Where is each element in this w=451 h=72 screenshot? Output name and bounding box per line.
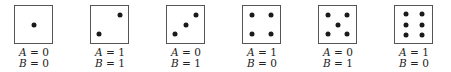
die-face [242,5,281,44]
variable-name: B [19,57,27,69]
pip-dot-icon [344,13,349,18]
variable-value: 1 [194,57,201,69]
label-b: B = 1 [84,58,136,69]
pip-dot-icon [404,22,409,27]
pip-dot-icon [250,31,255,36]
variable-name: B [247,57,255,69]
variable-value: 0 [42,57,49,69]
variable-name: B [399,57,407,69]
die-face [14,5,53,44]
pip-dot-icon [335,22,340,27]
die-face [166,5,205,44]
pip-dot-icon [419,32,424,37]
variable-value: 0 [270,57,277,69]
die-1: A = 0B = 0 [8,4,60,72]
pip-dot-icon [326,13,331,18]
pip-dot-icon [193,13,198,18]
pip-dot-icon [419,22,424,27]
variable-name: B [323,57,331,69]
pip-dot-icon [268,31,273,36]
pip-dot-icon [326,31,331,36]
label-b: B = 1 [160,58,212,69]
die-face [318,5,357,44]
die-6: A = 1B = 0 [388,4,440,72]
pip-dot-icon [250,13,255,18]
pip-dot-icon [97,31,102,36]
die-5: A = 0B = 1 [312,4,364,72]
die-face [90,5,129,44]
die-face [394,5,433,44]
pip-dot-icon [404,12,409,17]
variable-value: 1 [118,57,125,69]
pip-dot-icon [173,31,178,36]
pip-dot-icon [31,22,36,27]
label-b: B = 0 [388,58,440,69]
pip-dot-icon [419,12,424,17]
label-b: B = 0 [8,58,60,69]
equals-sign: = [179,57,194,69]
pip-dot-icon [268,13,273,18]
die-4: A = 1B = 0 [236,4,288,72]
equals-sign: = [27,57,42,69]
equals-sign: = [407,57,422,69]
equals-sign: = [103,57,118,69]
pip-dot-icon [117,13,122,18]
variable-name: B [171,57,179,69]
label-b: B = 0 [236,58,288,69]
variable-value: 0 [422,57,429,69]
pip-dot-icon [404,32,409,37]
equals-sign: = [331,57,346,69]
pip-dot-icon [344,31,349,36]
equals-sign: = [255,57,270,69]
die-2: A = 1B = 1 [84,4,136,72]
die-3: A = 0B = 1 [160,4,212,72]
variable-name: B [95,57,103,69]
pip-dot-icon [183,22,188,27]
variable-value: 1 [346,57,353,69]
label-b: B = 1 [312,58,364,69]
